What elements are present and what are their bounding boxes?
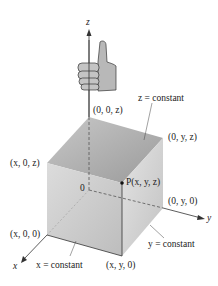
label-x-y-0: (x, y, 0) bbox=[106, 261, 135, 271]
label-0-y-0: (0, y, 0) bbox=[168, 197, 197, 207]
leader-x-constant bbox=[70, 241, 76, 256]
y-axis-label: y bbox=[207, 214, 211, 224]
label-x-constant: x = constant bbox=[36, 261, 83, 271]
label-0-0-z: (0, 0, z) bbox=[93, 106, 123, 116]
leader-y-constant bbox=[150, 225, 164, 238]
label-0-y-z: (0, y, z) bbox=[168, 133, 197, 143]
thumbs-up-hand-icon bbox=[78, 41, 116, 91]
label-y-constant: y = constant bbox=[148, 240, 195, 250]
label-origin: 0 bbox=[80, 184, 85, 194]
y-axis bbox=[163, 208, 201, 218]
label-z-constant: z = constant bbox=[138, 94, 184, 104]
label-x-0-z: (x, 0, z) bbox=[10, 159, 40, 169]
z-axis-label: z bbox=[86, 18, 90, 28]
x-axis-label: x bbox=[13, 262, 17, 272]
z-axis-arrow-icon bbox=[87, 29, 92, 36]
label-point-p: P(x, y, z) bbox=[126, 178, 160, 188]
label-x-0-0: (x, 0, 0) bbox=[10, 230, 40, 240]
point-p bbox=[120, 181, 124, 185]
y-axis-arrow-icon bbox=[197, 215, 205, 220]
